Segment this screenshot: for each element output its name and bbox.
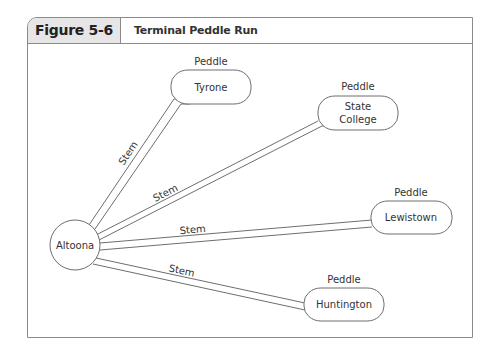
node-caption: Peddle — [394, 187, 427, 198]
node-lewistown: Peddle Lewistown — [371, 187, 452, 234]
hub-label: Altoona — [56, 240, 94, 251]
node-label: Lewistown — [385, 212, 437, 223]
node-huntington: Peddle Huntington — [304, 274, 384, 321]
stem-edge-tyrone — [89, 99, 190, 229]
node-state-college: Peddle State College — [318, 81, 398, 130]
peddle-run-diagram: Altoona Peddle Tyrone Peddle State Colle… — [0, 0, 500, 356]
node-caption: Peddle — [327, 274, 360, 285]
edge-label-tyrone: Stem — [116, 139, 140, 167]
hub-node-altoona: Altoona — [50, 220, 100, 270]
stem-edge-state-college — [96, 121, 328, 240]
node-label-line-1: State — [345, 101, 371, 112]
stem-edge-lewistown — [100, 220, 372, 250]
node-caption: Peddle — [341, 81, 374, 92]
node-caption: Peddle — [194, 56, 227, 67]
node-label: Huntington — [316, 299, 372, 310]
stem-edge-huntington — [93, 258, 305, 310]
node-tyrone: Peddle Tyrone — [171, 56, 251, 104]
node-label: Tyrone — [194, 82, 228, 93]
edge-label-lewistown: Stem — [179, 223, 206, 236]
node-label-line-2: College — [339, 114, 376, 125]
